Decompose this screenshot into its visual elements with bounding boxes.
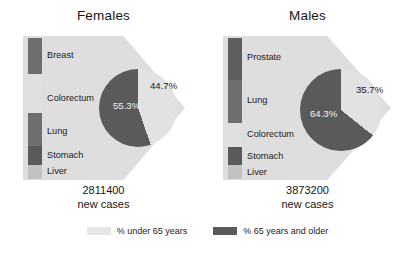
- pie-pct-over-65-females: 55.3%: [113, 100, 140, 111]
- cancer-incidence-figure: { "figure": { "background": "#ffffff", "…: [0, 0, 415, 253]
- panel-males: Males ProstateLungColorectumStomachLiver…: [204, 0, 411, 253]
- legend: % under 65 years % 65 years and older: [0, 226, 415, 236]
- site-bar-segment-prostate: [228, 38, 242, 80]
- site-bar-segment-liver: [228, 165, 242, 179]
- cases-block-females: 2811400 new cases: [0, 183, 207, 211]
- site-bar-segment-liver: [28, 165, 42, 179]
- site-label-stomach: Stomach: [247, 151, 283, 161]
- pie-pct-over-65-males: 64.3%: [310, 108, 337, 119]
- site-bar-segment-lung: [228, 80, 242, 122]
- site-color-bar-females: [28, 38, 42, 179]
- legend-swatch-over-65-icon: [213, 227, 237, 235]
- site-bar-segment-colorectum: [28, 74, 42, 113]
- site-label-colorectum: Colorectum: [247, 129, 294, 139]
- site-label-lung: Lung: [247, 95, 267, 105]
- legend-swatch-under-65-icon: [87, 227, 111, 235]
- legend-label-under-65: % under 65 years: [117, 226, 188, 236]
- site-label-breast: Breast: [47, 50, 74, 60]
- site-bar-segment-colorectum: [228, 123, 242, 147]
- site-label-liver: Liver: [247, 167, 267, 177]
- site-bar-segment-stomach: [28, 146, 42, 165]
- cases-number-females: 2811400: [0, 183, 207, 197]
- site-label-liver: Liver: [47, 166, 67, 176]
- cases-block-males: 3873200 new cases: [204, 183, 411, 211]
- cases-number-males: 3873200: [204, 183, 411, 197]
- legend-item-over-65: % 65 years and older: [213, 226, 328, 236]
- panel-title-males: Males: [204, 8, 411, 23]
- site-label-lung: Lung: [47, 126, 67, 136]
- panel-title-females: Females: [0, 8, 207, 23]
- site-label-stomach: Stomach: [47, 150, 83, 160]
- legend-label-over-65: % 65 years and older: [243, 226, 328, 236]
- cases-caption-males: new cases: [204, 197, 411, 211]
- legend-item-under-65: % under 65 years: [87, 226, 188, 236]
- site-label-colorectum: Colorectum: [47, 93, 94, 103]
- pie-pct-under-65-females: 44.7%: [150, 80, 177, 91]
- site-bar-segment-lung: [28, 113, 42, 145]
- panel-females: Females BreastColorectumLungStomachLiver…: [0, 0, 207, 253]
- pie-pct-under-65-males: 35.7%: [356, 84, 383, 95]
- site-bar-segment-breast: [28, 38, 42, 74]
- site-color-bar-males: [228, 38, 242, 179]
- site-bar-segment-stomach: [228, 147, 242, 165]
- site-label-prostate: Prostate: [247, 52, 281, 62]
- cases-caption-females: new cases: [0, 197, 207, 211]
